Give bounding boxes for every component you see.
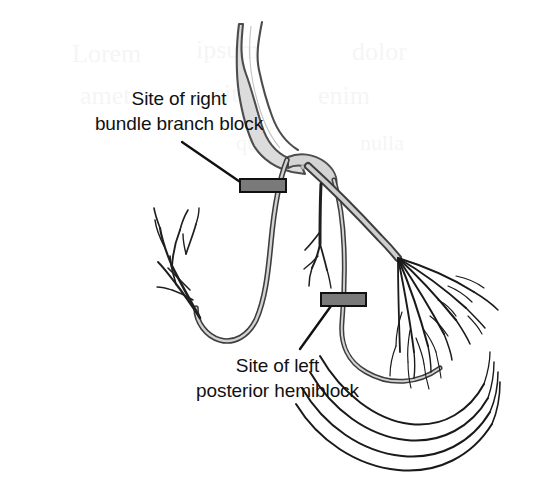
svg-text:enim: enim <box>318 81 370 110</box>
conduction-system-figure: Lorem ipsum dolor amet sit enim quis nul… <box>0 0 540 496</box>
svg-text:nulla: nulla <box>360 130 404 155</box>
svg-text:Lorem: Lorem <box>72 39 141 68</box>
annotation-rbbb-line1: Site of right <box>54 86 304 111</box>
svg-text:dolor: dolor <box>352 37 407 66</box>
block-marker-left-posterior <box>321 293 366 306</box>
annotation-lph-line1: Site of left <box>150 353 405 378</box>
septal-fibers <box>304 184 331 288</box>
purkinje-fibers-left <box>154 208 200 318</box>
conduction-diagram: Lorem ipsum dolor amet sit enim quis nul… <box>0 0 540 496</box>
annotation-rbbb-line2: bundle branch block <box>54 111 304 136</box>
leader-line-lph <box>300 306 331 349</box>
annotation-left-posterior-hemiblock: Site of left posterior hemiblock <box>150 353 405 403</box>
annotation-right-bundle-branch-block: Site of right bundle branch block <box>54 86 304 136</box>
annotation-lph-line2: posterior hemiblock <box>150 378 405 403</box>
block-marker-right-bundle <box>240 179 286 192</box>
